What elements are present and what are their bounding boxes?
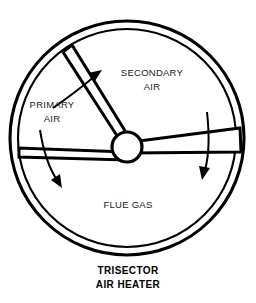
rotor-hub: [112, 132, 142, 162]
primary-air-label-line1: PRIMARY: [30, 99, 75, 110]
caption-line-2: AIR HEATER: [96, 279, 161, 290]
secondary-air-label-line2: AIR: [144, 81, 161, 92]
sector-label-flue-gas: FLUE GAS: [104, 199, 153, 210]
flue-gas-label-line1: FLUE GAS: [104, 199, 153, 210]
sector-label-secondary-air: SECONDARY AIR: [121, 67, 184, 92]
air-heater-diagram: SECONDARY AIR PRIMARY AIR FLUE GAS TRISE…: [0, 0, 256, 303]
caption-line-1: TRISECTOR: [97, 265, 159, 276]
secondary-air-label-line1: SECONDARY: [121, 67, 184, 78]
sector-label-primary-air: PRIMARY AIR: [30, 99, 75, 124]
trisector-air-heater-figure: SECONDARY AIR PRIMARY AIR FLUE GAS TRISE…: [0, 0, 256, 303]
primary-air-label-line2: AIR: [44, 113, 61, 124]
divider-wall-primary-fluegas: [19, 148, 126, 160]
divider-wall-secondary-fluegas: [131, 128, 241, 153]
figure-caption: TRISECTOR AIR HEATER: [96, 265, 161, 290]
